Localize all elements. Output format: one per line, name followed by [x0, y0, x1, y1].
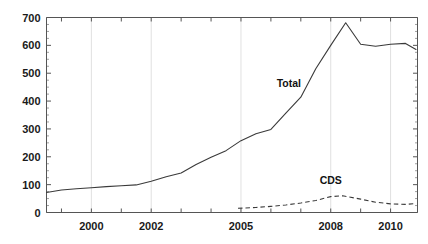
series-annotation-total: Total	[277, 77, 301, 89]
x-tick-label: 2010	[378, 220, 402, 232]
gridlines	[91, 18, 390, 213]
x-tick-label: 2008	[318, 220, 342, 232]
x-axis-tick-labels: 20002002200520082010	[79, 220, 403, 232]
x-tick-label: 2000	[79, 220, 103, 232]
plot-frame	[47, 18, 418, 213]
y-tick-label: 700	[22, 12, 40, 24]
series-annotation-cds: CDS	[320, 174, 342, 186]
y-axis-ticks	[47, 18, 418, 213]
y-tick-label: 600	[22, 39, 40, 51]
series-line-cds	[238, 196, 416, 209]
line-chart: 0100200300400500600700 20002002200520082…	[0, 0, 428, 244]
x-tick-label: 2005	[229, 220, 253, 232]
y-tick-label: 300	[22, 123, 40, 135]
y-axis-tick-labels: 0100200300400500600700	[22, 12, 40, 219]
y-tick-label: 500	[22, 67, 40, 79]
chart-figure: 0100200300400500600700 20002002200520082…	[0, 0, 428, 244]
y-tick-label: 100	[22, 179, 40, 191]
x-tick-label: 2002	[139, 220, 163, 232]
y-tick-label: 0	[34, 207, 40, 219]
series-line-total	[47, 23, 417, 193]
y-tick-label: 400	[22, 95, 40, 107]
y-tick-label: 200	[22, 151, 40, 163]
